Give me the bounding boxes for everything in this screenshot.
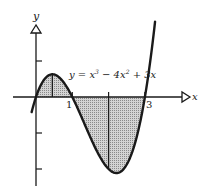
function-graph-figure: y x 1 3 y = x3 − 4x2 + 3x [0, 0, 202, 196]
x-tick-label-1: 1 [66, 99, 72, 110]
x-axis-arrow-icon [182, 92, 190, 102]
function-label: y = x3 − 4x2 + 3x [68, 68, 157, 80]
y-axis-label: y [32, 10, 40, 23]
x-tick-label-3: 3 [146, 99, 152, 110]
y-axis-arrow-icon [31, 25, 41, 33]
x-axis-label: x [192, 91, 198, 102]
